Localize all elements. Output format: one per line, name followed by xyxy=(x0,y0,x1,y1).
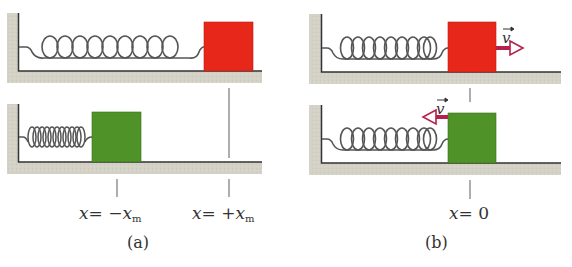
marker-plus-xm: x= +xm xyxy=(192,203,255,224)
floor xyxy=(309,163,561,175)
caption-a: (a) xyxy=(127,233,149,252)
var-x: x xyxy=(192,203,202,223)
equals-sign: = xyxy=(202,203,216,223)
red-block xyxy=(204,22,253,71)
velocity-label-top: v xyxy=(502,29,510,47)
floor xyxy=(7,71,262,83)
var-x: x xyxy=(449,203,459,223)
equals-sign: = xyxy=(89,203,103,223)
velocity-label-bottom: v xyxy=(436,100,444,118)
sign: + xyxy=(221,203,235,223)
subscript-m: m xyxy=(132,213,141,224)
floor xyxy=(7,162,262,174)
panel-b-bottom-scene xyxy=(309,105,561,175)
floor xyxy=(309,72,561,84)
spring-icon xyxy=(19,36,204,58)
marker-x-zero: x= 0 xyxy=(449,203,489,223)
panel-b-top-scene xyxy=(309,14,561,84)
panel-a-bottom-scene xyxy=(7,104,262,174)
wall-floor-edge xyxy=(322,14,562,72)
symbol-x: x xyxy=(236,203,246,223)
spring-icon xyxy=(322,37,448,59)
value-zero: 0 xyxy=(478,203,489,223)
spring-icon xyxy=(322,128,448,150)
subscript-m: m xyxy=(245,213,254,224)
green-block xyxy=(92,112,141,162)
caption-b: (b) xyxy=(425,233,448,252)
compressed-spring-icon xyxy=(19,127,92,147)
equals-sign: = xyxy=(459,203,473,223)
spring-block-diagram xyxy=(0,0,572,267)
panel-a-top-scene xyxy=(7,13,262,83)
sign: − xyxy=(108,203,122,223)
marker-minus-xm: x= −xm xyxy=(79,203,142,224)
var-x: x xyxy=(79,203,89,223)
symbol-x: x xyxy=(123,203,133,223)
red-block xyxy=(448,22,496,72)
green-block xyxy=(448,113,496,163)
